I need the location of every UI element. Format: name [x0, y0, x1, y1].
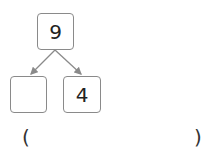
known-part-box: 4 — [63, 76, 101, 113]
missing-part-box[interactable] — [10, 76, 47, 113]
total-number-box: 9 — [37, 13, 74, 50]
answer-open-paren: ( — [22, 125, 30, 149]
answer-close-paren: ) — [194, 125, 202, 149]
